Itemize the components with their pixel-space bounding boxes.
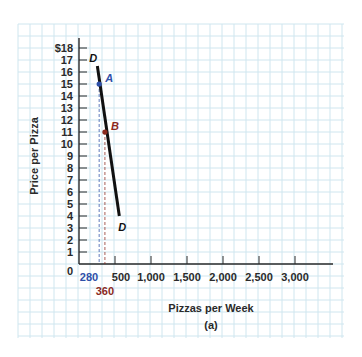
- y-tick-label: 13: [61, 102, 73, 114]
- x-tick-label: 2,500: [245, 271, 273, 283]
- y-tick-label: 14: [61, 90, 74, 102]
- x-tick-label: 1,500: [173, 271, 201, 283]
- y-tick-label: $18: [55, 42, 73, 54]
- y-tick-label: 11: [61, 126, 73, 138]
- curve-label-d-top: D: [89, 52, 97, 64]
- y-tick-label: 10: [61, 138, 73, 150]
- curve-label-d-bottom: D: [118, 221, 126, 233]
- demand-line: [97, 66, 119, 216]
- x-tick-label: 2,000: [209, 271, 237, 283]
- point-b: [102, 129, 107, 134]
- y-tick-label: 15: [61, 78, 73, 90]
- y-tick-label: 6: [67, 186, 73, 198]
- y-tick-label: 2: [67, 234, 73, 246]
- origin-label: 0: [67, 265, 73, 277]
- point-label-b: B: [111, 120, 119, 132]
- demand-chart: 1234567891011121314151617$180 5001,0001,…: [0, 0, 362, 357]
- x-marker-label-a: 280: [80, 271, 98, 283]
- y-tick-label: 12: [61, 114, 73, 126]
- y-tick-label: 16: [61, 66, 73, 78]
- dashed-guides: 280360: [80, 84, 114, 297]
- x-tick-label: 500: [112, 271, 130, 283]
- y-tick-label: 3: [67, 222, 73, 234]
- y-tick-label: 7: [67, 174, 73, 186]
- point-a: [97, 81, 102, 86]
- x-tick-label: 3,000: [281, 271, 309, 283]
- y-tick-label: 9: [67, 150, 73, 162]
- x-marker-label-b: 360: [96, 285, 114, 297]
- y-tick-label: 5: [67, 198, 73, 210]
- chart-caption: (a): [204, 319, 218, 331]
- y-tick-label: 17: [61, 54, 73, 66]
- y-tick-label: 8: [67, 162, 73, 174]
- x-axis-title: Pizzas per Week: [168, 302, 254, 314]
- y-axis-title: Price per Pizza: [28, 116, 40, 195]
- x-tick-label: 1,000: [137, 271, 165, 283]
- y-tick-label: 1: [67, 246, 73, 258]
- y-axis-ticks: 1234567891011121314151617$180: [55, 42, 87, 277]
- y-tick-label: 4: [67, 210, 74, 222]
- point-label-a: A: [104, 72, 113, 84]
